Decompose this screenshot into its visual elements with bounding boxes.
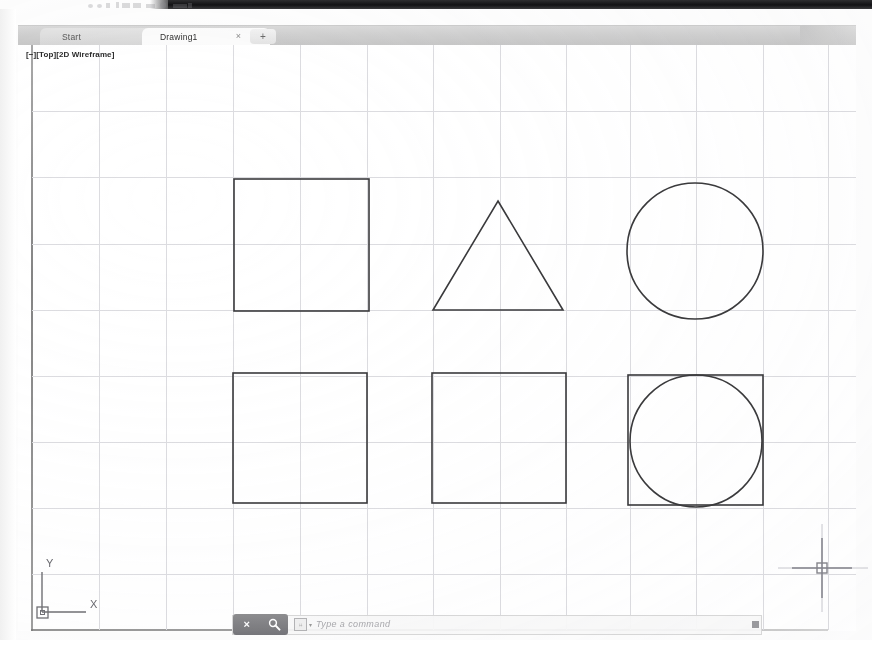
command-history-icon: ⌗ [294, 618, 307, 631]
square-bottom-left[interactable] [233, 373, 367, 503]
close-icon: × [244, 619, 250, 630]
command-line-buttons: × [233, 614, 288, 635]
magnifier-wrench-icon [268, 618, 281, 631]
ucs-icon: Y X [30, 550, 140, 630]
triangle-top-middle[interactable] [433, 201, 563, 310]
autocad-window: Start Drawing1 × + [−][Top][2D Wireframe… [0, 0, 872, 662]
ucs-x-label: X [90, 598, 98, 610]
ucs-y-label: Y [46, 557, 54, 569]
command-input-placeholder[interactable]: Type a command [316, 619, 390, 629]
command-close-button[interactable]: × [236, 614, 258, 635]
circle-inscribed-bottom-right[interactable] [630, 375, 762, 507]
square-bottom-middle[interactable] [432, 373, 566, 503]
command-scroll-handle[interactable] [752, 621, 759, 628]
command-search-button[interactable] [263, 614, 285, 635]
page-edge-left [0, 9, 16, 662]
chevron-down-icon: ▾ [309, 622, 312, 628]
command-prefix-group[interactable]: ⌗ ▾ [294, 618, 312, 631]
crosshair-cursor [778, 524, 868, 612]
page-edge-bottom [0, 640, 872, 662]
square-top-left[interactable] [234, 179, 369, 311]
circle-top-right[interactable] [627, 183, 763, 319]
